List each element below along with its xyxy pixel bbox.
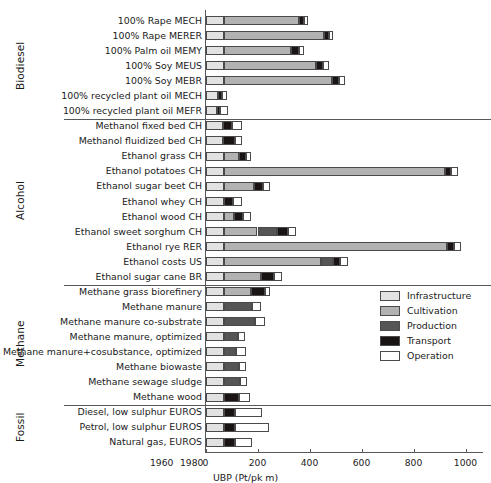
bar-row [206,317,266,326]
bar-row [206,242,462,251]
x-axis-tick [258,449,259,452]
bar-row [206,46,305,55]
bar-segment-infrastructure [206,347,224,356]
bar-segment-production [224,332,238,341]
x-axis-tick [206,449,207,452]
bar-row-label: 100% recycled plant oil MECH [61,90,202,101]
bar-segment-infrastructure [206,152,225,161]
bar-row [206,362,246,371]
bar-segment-operation [233,197,242,206]
bar-row-label: Methane manure [122,301,202,312]
bar-segment-operation [329,31,333,40]
bar-row-label: Methane biowaste [116,361,202,372]
legend-swatch-production [380,321,400,331]
bar-segment-operation [222,91,227,100]
bar-segment-transport [254,182,264,191]
group-label-fossil: Fossil [14,399,26,455]
bar-segment-operation [240,377,247,386]
bar-segment-infrastructure [206,212,224,221]
bar-segment-infrastructure [206,393,224,402]
bar-segment-cultivation [224,227,258,236]
bar-segment-transport [224,408,235,417]
bar-row [206,167,459,176]
bar-segment-production [258,227,278,236]
bar-row-label: Methane manure co-substrate [60,316,202,327]
group-label-alcohol: Alcohol [14,173,26,229]
bar-segment-cultivation [224,31,324,40]
legend-label: Infrastructure [407,290,471,301]
legend-swatch-operation [380,351,400,361]
bar-segment-infrastructure [206,287,224,296]
bar-row-label: Ethanol costs US [123,256,202,267]
bar-segment-transport [333,257,340,266]
legend-swatch-infrastructure [380,291,400,301]
secondary-axis-tick-label: 1980 [180,457,203,468]
bar-segment-infrastructure [206,182,224,191]
bar-segment-operation [263,182,270,191]
bar-segment-transport [251,287,265,296]
bar-row-label: Methane grass biorefinery [79,286,202,297]
bar-segment-infrastructure [206,438,224,447]
bar-segment-transport [223,121,232,130]
bar-row-label: Methanol fixed bed CH [95,120,202,131]
bar-segment-transport [261,272,273,281]
legend-label: Transport [407,335,451,346]
group-label-methane: Methane [14,316,26,372]
legend-item[interactable]: Operation [380,348,471,363]
bar-row-label: Natural gas, EUROS [109,436,202,447]
bar-segment-transport [277,227,288,236]
bar-row [206,212,252,221]
bar-row-label: Methanol fluidized bed CH [79,135,202,146]
bar-segment-operation [299,46,304,55]
bar-row-label: Petrol, low sulphur EUROS [80,421,202,432]
bar-row [206,182,271,191]
bar-segment-cultivation [224,152,238,161]
bar-segment-infrastructure [206,16,224,25]
x-axis-tick-label: 200 [233,457,283,468]
legend-item[interactable]: Transport [380,333,471,348]
bar-segment-infrastructure [206,332,224,341]
bar-row [206,76,345,85]
bar-segment-production [321,257,333,266]
bar-segment-infrastructure [206,377,224,386]
bar-row-label: 100% recycled plant oil MEFR [63,105,202,116]
bar-segment-infrastructure [206,121,224,130]
bar-segment-operation [255,317,265,326]
bar-segment-infrastructure [206,136,223,145]
bar-segment-transport [332,76,340,85]
bar-segment-operation [274,272,283,281]
bar-segment-production [224,362,240,371]
bar-segment-infrastructure [206,302,224,311]
bar-segment-operation [246,152,251,161]
x-axis-tick [310,449,311,452]
bar-row-label: 100% Soy MEUS [125,60,202,71]
bar-segment-cultivation [224,46,292,55]
bar-row-label: Ethanol potatoes CH [106,165,202,176]
bar-segment-operation [239,362,246,371]
bar-row-label: Methane manure+cosubstance, optimized [3,346,202,357]
bar-segment-infrastructure [206,227,224,236]
bar-segment-operation [304,16,308,25]
bar-segment-operation [238,332,245,341]
x-axis-tick-label: 800 [389,457,439,468]
bar-segment-production [224,347,236,356]
legend-item[interactable]: Cultivation [380,303,471,318]
bar-segment-transport [224,197,233,206]
bar-row [206,347,246,356]
x-axis-tick-label: 400 [285,457,335,468]
bar-segment-operation [235,408,262,417]
bar-segment-infrastructure [206,46,224,55]
legend-item[interactable]: Infrastructure [380,288,471,303]
x-axis-tick-label: 600 [337,457,387,468]
y-axis-spine [205,10,206,452]
x-axis-tick [466,449,467,452]
bar-segment-operation [252,302,260,311]
bar-segment-operation [235,423,269,432]
legend-item[interactable]: Production [380,318,471,333]
bar-segment-infrastructure [206,197,224,206]
bar-segment-infrastructure [206,61,224,70]
bar-segment-infrastructure [206,257,224,266]
bar-segment-cultivation [224,212,234,221]
bar-segment-operation [236,347,246,356]
bar-row [206,31,334,40]
